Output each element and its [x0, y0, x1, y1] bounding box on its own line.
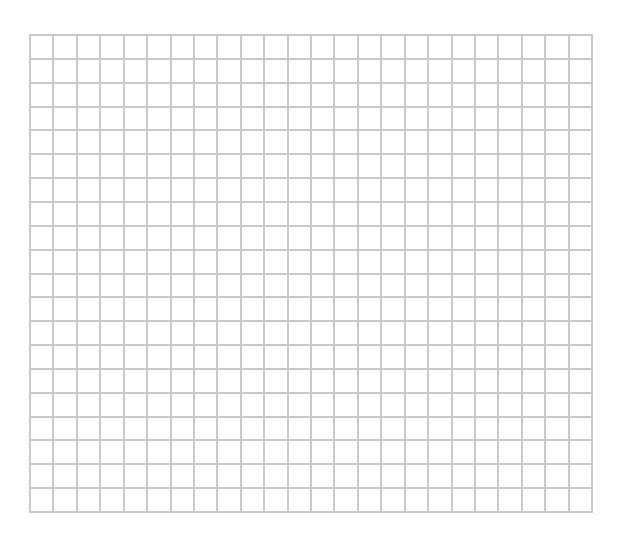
grid-line-horizontal — [29, 82, 593, 84]
grid-line-horizontal — [29, 487, 593, 489]
grid-line-horizontal — [29, 225, 593, 227]
grid-line-horizontal — [29, 439, 593, 441]
grid-line-horizontal — [29, 463, 593, 465]
grid-line-horizontal — [29, 273, 593, 275]
grid-line-horizontal — [29, 392, 593, 394]
grid-border-horizontal — [29, 34, 593, 36]
grid-line-horizontal — [29, 320, 593, 322]
grid-line-horizontal — [29, 58, 593, 60]
grid-line-horizontal — [29, 129, 593, 131]
grid-line-horizontal — [29, 153, 593, 155]
grid-line-horizontal — [29, 249, 593, 251]
grid-line-horizontal — [29, 177, 593, 179]
blank-grid — [29, 34, 593, 513]
grid-line-horizontal — [29, 296, 593, 298]
grid-line-horizontal — [29, 344, 593, 346]
grid-line-horizontal — [29, 368, 593, 370]
grid-line-horizontal — [29, 106, 593, 108]
grid-line-horizontal — [29, 201, 593, 203]
grid-border-horizontal — [29, 511, 593, 513]
grid-line-horizontal — [29, 416, 593, 418]
